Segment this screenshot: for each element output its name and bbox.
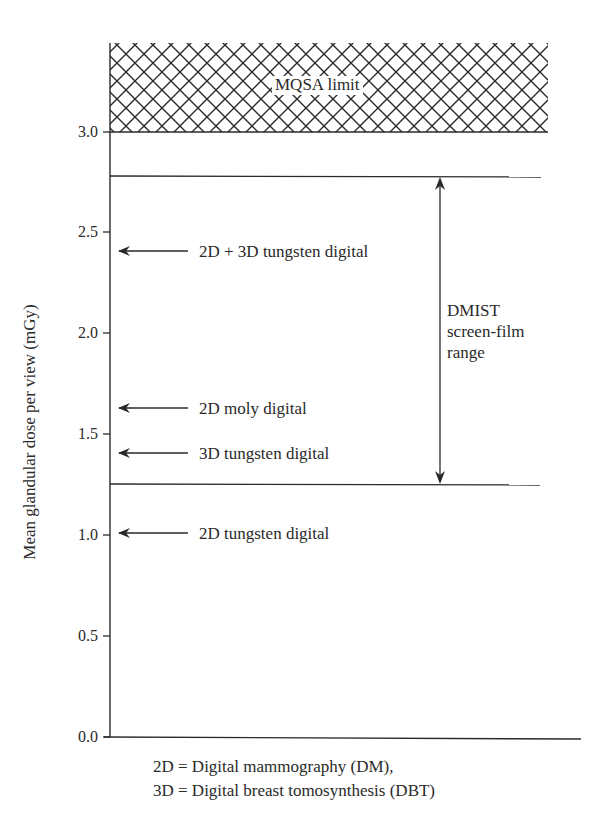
y-tick-label: 2.5 [58, 224, 98, 240]
y-tick-label: 0.0 [58, 729, 98, 745]
y-tick-label: 2.0 [58, 325, 98, 341]
dmist-range-double-arrow-icon [435, 177, 445, 484]
dmist-label-line3: range [447, 342, 524, 363]
mqsa-limit-label: MQSA limit [272, 76, 363, 95]
dmist-range-label: DMIST screen-film range [447, 300, 524, 363]
y-tick-label: 0.5 [58, 628, 98, 644]
x-axis [104, 737, 581, 739]
marker-label-2d-tungsten: 2D tungsten digital [199, 525, 329, 542]
marker-label-2d-moly: 2D moly digital [199, 400, 307, 417]
footnote: 2D = Digital mammography (DM), 3D = Digi… [153, 755, 435, 803]
y-axis-label: Mean glandular dose per view (mGy) [20, 282, 40, 582]
marker-label-2d-3d-tungsten: 2D + 3D tungsten digital [199, 243, 368, 260]
marker-label-3d-tungsten: 3D tungsten digital [199, 445, 329, 462]
dmist-lower-line [110, 484, 540, 485]
dmist-label-line2: screen-film [447, 321, 524, 342]
y-tick-label: 1.5 [58, 426, 98, 442]
y-tick-label: 1.0 [58, 527, 98, 543]
y-tick-label: 3.0 [58, 124, 98, 140]
marker-arrows [119, 251, 188, 533]
footnote-line1: 2D = Digital mammography (DM), [153, 755, 435, 779]
dmist-upper-line [110, 176, 541, 177]
footnote-line2: 3D = Digital breast tomosynthesis (DBT) [153, 779, 435, 803]
dmist-label-line1: DMIST [447, 300, 524, 321]
y-ticks [103, 132, 110, 737]
